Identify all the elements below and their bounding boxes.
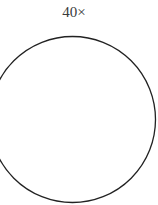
microscope-field-circle — [0, 37, 156, 203]
field-of-view-circle — [0, 0, 158, 205]
